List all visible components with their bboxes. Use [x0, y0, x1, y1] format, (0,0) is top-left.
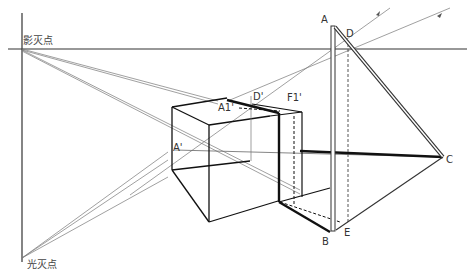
shadow-vanishing-point-label: 影灭点: [23, 36, 53, 46]
bar-AC: [335, 27, 443, 157]
pole-AB: [331, 26, 335, 231]
point-A-prime-label: A': [173, 143, 183, 153]
light-vanishing-rays: [22, 152, 168, 258]
perspective-shadow-diagram: [0, 0, 467, 273]
point-D-prime-label: D': [253, 92, 263, 102]
shadow-vanishing-rays: [22, 49, 300, 194]
cube: [172, 96, 278, 222]
point-C-label: C: [446, 155, 453, 165]
light-vanishing-point-label: 光灭点: [27, 260, 57, 270]
point-E-label: E: [344, 228, 350, 238]
line-EC: [336, 157, 443, 230]
point-F1-prime-label: F1': [287, 93, 302, 103]
point-B-label: B: [322, 237, 329, 247]
point-A1-prime-label: A1': [218, 103, 234, 113]
point-D-label: D: [346, 29, 354, 39]
point-A-label: A: [321, 15, 328, 25]
